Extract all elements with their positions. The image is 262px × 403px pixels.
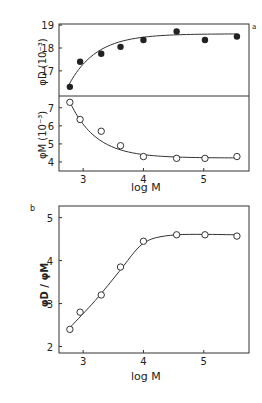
figure: 1718194567345φD (10⁻³)φM (10⁻³)2345345φD…	[0, 0, 262, 403]
y-tick-label: 5	[48, 139, 54, 150]
phiM-point	[140, 153, 146, 159]
phiM-point	[98, 128, 104, 134]
x-axis-label-a: log M	[131, 181, 161, 194]
y-tick-label: 7	[48, 103, 54, 114]
panel-b-label: b	[30, 204, 35, 213]
ratio-point	[202, 232, 208, 238]
x-axis-label-b: log M	[131, 370, 161, 383]
y-tick-label: 4	[48, 157, 54, 168]
phiM-point	[202, 155, 208, 161]
phiM-point	[67, 99, 73, 105]
panel-a-label: a	[252, 23, 256, 31]
y-axis-label-phiD: φD (10⁻³)	[37, 38, 48, 85]
y-tick-label: 5	[47, 213, 53, 224]
phiD-point	[173, 28, 179, 34]
phiD-point	[67, 84, 73, 90]
ratio-point	[117, 264, 123, 270]
phiD-point	[234, 33, 240, 39]
phiD-point	[98, 51, 104, 57]
phiD-fit-curve	[68, 34, 237, 86]
phiM-point	[234, 153, 240, 159]
phiD-point	[202, 37, 208, 43]
y-tick-label: 6	[48, 121, 54, 132]
ratio-fit-curve	[71, 234, 237, 326]
phiD-point	[140, 37, 146, 43]
x-tick-label: 3	[80, 356, 86, 367]
phiM-point	[77, 116, 83, 122]
phiM-point	[173, 155, 179, 161]
ratio-point	[234, 233, 240, 239]
x-tick-label: 3	[80, 174, 86, 185]
ratio-point	[67, 326, 73, 332]
y-tick-label: 19	[41, 20, 54, 31]
phiD-point	[77, 59, 83, 65]
x-tick-label: 5	[201, 356, 207, 367]
phiM-point	[117, 142, 123, 148]
y-tick-label: 2	[47, 342, 53, 353]
y-axis-label-ratio: φD / φM	[39, 263, 50, 308]
y-axis-label-phiM: φM (10⁻³)	[37, 111, 48, 159]
x-tick-label: 5	[201, 174, 207, 185]
panel-a-frame	[59, 24, 249, 171]
phiM-fit-curve	[70, 102, 237, 158]
ratio-point	[98, 292, 104, 298]
ratio-point	[140, 238, 146, 244]
ratio-point	[173, 232, 179, 238]
x-tick-label: 4	[140, 356, 146, 367]
ratio-point	[77, 309, 83, 315]
phiD-point	[117, 44, 123, 50]
panel-b-frame	[59, 206, 249, 353]
